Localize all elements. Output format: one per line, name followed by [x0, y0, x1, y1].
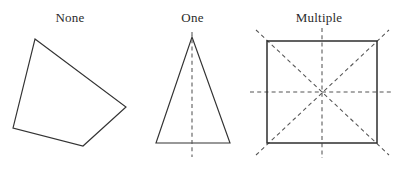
shape-group-one: [156, 32, 230, 157]
shape-group-none: [13, 39, 126, 146]
shape-group-multiple: [250, 28, 393, 158]
figure-svg-layer: [0, 0, 393, 170]
symmetry-figure-board: None One Multiple: [0, 0, 393, 170]
isosceles-triangle-shape: [156, 37, 230, 143]
irregular-quadrilateral-shape: [13, 39, 126, 146]
